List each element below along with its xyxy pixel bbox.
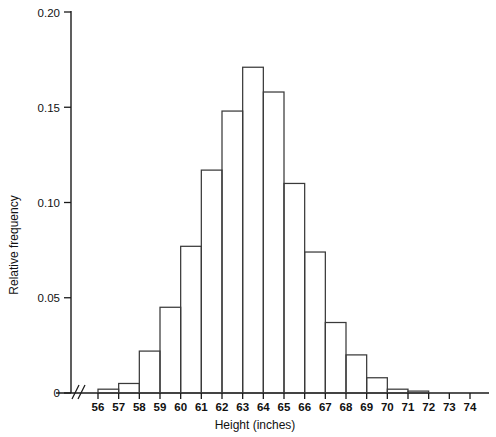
histogram-bar xyxy=(160,307,181,393)
histogram-bar xyxy=(243,67,264,393)
x-tick-label: 73 xyxy=(443,401,456,413)
x-tick-label: 56 xyxy=(92,401,105,413)
y-tick-label-010: 0.10 xyxy=(38,197,60,209)
y-tick-label-005: 0.05 xyxy=(38,292,60,304)
x-tick-label: 66 xyxy=(298,401,311,413)
y-axis-ticks xyxy=(64,12,71,393)
x-tick-labels: 56575859606162636465666768697071727374 xyxy=(92,401,477,413)
x-tick-label: 64 xyxy=(257,401,270,413)
histogram-bar xyxy=(98,389,119,393)
histogram-bar xyxy=(325,323,346,393)
x-tick-label: 59 xyxy=(154,401,167,413)
histogram-bar xyxy=(305,252,326,393)
x-axis-ticks xyxy=(98,393,470,399)
y-axis-title: Relative frequency xyxy=(7,195,21,294)
x-tick-label: 58 xyxy=(133,401,146,413)
histogram-chart: 0 0.05 0.10 0.15 0.20 Relative frequency… xyxy=(0,0,496,437)
chart-svg: 0 0.05 0.10 0.15 0.20 Relative frequency… xyxy=(0,0,496,437)
histogram-bar xyxy=(181,246,202,393)
y-tick-label-0: 0 xyxy=(54,387,60,399)
x-tick-label: 74 xyxy=(464,401,477,413)
x-tick-label: 67 xyxy=(319,401,332,413)
x-tick-label: 61 xyxy=(195,401,208,413)
histogram-bar xyxy=(408,391,429,393)
x-tick-label: 62 xyxy=(216,401,229,413)
histogram-bar xyxy=(201,170,222,393)
x-tick-label: 68 xyxy=(340,401,353,413)
histogram-bar xyxy=(222,111,243,393)
x-tick-label: 60 xyxy=(174,401,187,413)
y-tick-label-015: 0.15 xyxy=(38,102,60,114)
histogram-bar xyxy=(387,389,408,393)
histogram-bar xyxy=(139,351,160,393)
x-tick-label: 70 xyxy=(381,401,394,413)
histogram-bar xyxy=(263,92,284,393)
histogram-bar xyxy=(119,383,140,393)
x-tick-label: 71 xyxy=(402,401,415,413)
histogram-bar xyxy=(284,183,305,393)
x-tick-label: 63 xyxy=(236,401,249,413)
x-tick-label: 69 xyxy=(360,401,373,413)
bars-layer xyxy=(98,67,429,393)
y-tick-label-020: 0.20 xyxy=(38,7,60,19)
histogram-bar xyxy=(367,378,388,393)
x-tick-label: 72 xyxy=(422,401,435,413)
x-tick-label: 65 xyxy=(278,401,291,413)
x-axis-break-icon xyxy=(72,385,85,399)
histogram-bar xyxy=(346,355,367,393)
x-axis-title: Height (inches) xyxy=(215,418,296,432)
x-tick-label: 57 xyxy=(112,401,125,413)
